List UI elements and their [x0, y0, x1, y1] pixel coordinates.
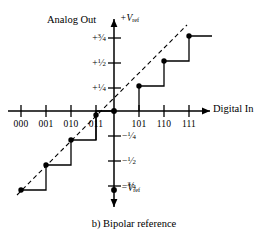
step-marker-011: [93, 112, 98, 117]
x-tick-label-000: 000: [8, 120, 34, 130]
y-tick-label-minus-three-quarters: −3⁄4: [122, 181, 136, 191]
x-tick-label-101: 101: [126, 120, 152, 130]
ideal-line-dashed: [17, 25, 187, 195]
x-axis-arrow-icon: [202, 108, 210, 115]
x-tick-label-111: 111: [176, 120, 202, 130]
y-axis-arrow-up-icon: [111, 19, 118, 27]
step-marker-101: [136, 83, 141, 88]
step-marker-010: [68, 137, 73, 142]
staircase-curve: [21, 36, 212, 190]
step-marker-001: [43, 162, 48, 167]
step-marker-110: [161, 58, 166, 63]
y-tick-label-plus-one-quarter: +1⁄4: [80, 83, 106, 93]
x-tick-label-011: 011: [83, 120, 109, 130]
y-tick-label-plus-three-quarters: +3⁄4: [80, 33, 106, 43]
positive-vref-label: +Vref: [120, 14, 139, 24]
x-tick-label-110: 110: [151, 120, 177, 130]
step-marker-111: [186, 33, 191, 38]
step-marker-100-origin: [111, 108, 117, 114]
x-tick-label-001: 001: [33, 120, 59, 130]
y-tick-label-plus-one-half: +1⁄2: [80, 58, 106, 68]
y-tick-label-minus-one-quarter: −1⁄4: [122, 131, 136, 141]
y-axis-title: Analog Out: [47, 15, 96, 26]
x-tick-label-010: 010: [58, 120, 84, 130]
figure-caption: b) Bipolar reference: [0, 219, 268, 230]
y-tick-label-minus-one-half: −1⁄2: [122, 156, 136, 166]
neg-vref-marker: [111, 187, 117, 193]
step-marker-000: [18, 187, 23, 192]
figure-bipolar-reference: Analog Out Digital In +Vref −Vref +3⁄4 +…: [0, 0, 268, 242]
y-axis-arrow-down-icon: [111, 199, 118, 207]
x-axis-title: Digital In: [213, 104, 254, 115]
